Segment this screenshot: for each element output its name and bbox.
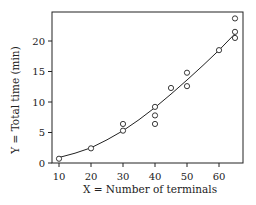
y-axis-label: Y = Total time (min) xyxy=(9,46,21,154)
y-axis-ticks: 05101520 xyxy=(32,36,52,169)
data-point xyxy=(152,121,157,126)
y-tick-label: 20 xyxy=(32,36,45,47)
x-tick-label: 40 xyxy=(149,171,162,182)
data-point xyxy=(120,128,125,133)
fitted-curve xyxy=(59,34,235,158)
data-point xyxy=(232,35,237,40)
data-point xyxy=(184,70,189,75)
y-tick-label: 15 xyxy=(32,66,45,77)
scatter-chart: 05101520 102030405060 X = Number of term… xyxy=(0,0,256,205)
data-point xyxy=(232,29,237,34)
plot-frame xyxy=(52,12,243,163)
data-point xyxy=(120,121,125,126)
y-tick-label: 10 xyxy=(32,97,45,108)
x-tick-label: 50 xyxy=(181,171,194,182)
y-tick-label: 5 xyxy=(39,127,45,138)
data-point xyxy=(152,113,157,118)
x-axis-ticks: 102030405060 xyxy=(53,163,226,182)
data-points xyxy=(56,16,237,161)
x-tick-label: 30 xyxy=(117,171,130,182)
x-tick-label: 60 xyxy=(213,171,226,182)
x-axis-label: X = Number of terminals xyxy=(83,183,217,195)
x-tick-label: 10 xyxy=(53,171,66,182)
y-tick-label: 0 xyxy=(39,158,45,169)
data-point xyxy=(168,85,173,90)
data-point xyxy=(56,156,61,161)
x-tick-label: 20 xyxy=(85,171,98,182)
data-point xyxy=(232,16,237,21)
data-point xyxy=(184,84,189,89)
data-point xyxy=(152,104,157,109)
data-point xyxy=(88,146,93,151)
data-point xyxy=(216,48,221,53)
